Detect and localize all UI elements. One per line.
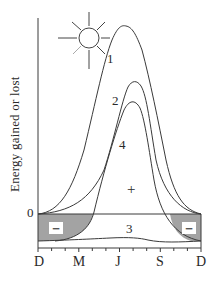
sun-icon [58, 12, 110, 69]
curve-label-2: 2 [112, 94, 119, 107]
negative-region-left [38, 214, 93, 241]
curve-label-3: 3 [126, 222, 133, 235]
curve-label-4: 4 [119, 138, 126, 151]
zero-label: 0 [27, 206, 34, 219]
curve-1 [38, 26, 201, 214]
negative-sign-left: − [49, 222, 63, 234]
curve-label-1: 1 [107, 52, 114, 65]
x-ticks [38, 248, 201, 252]
x-tick-label-mar: M [73, 255, 85, 269]
negative-sign-right: − [182, 222, 196, 234]
positive-region-sign: + [127, 182, 135, 197]
energy-diagram [0, 0, 217, 282]
y-axis-label: Energy gained or lost [8, 76, 21, 192]
x-tick-label-dec-start: D [34, 255, 44, 269]
x-tick-label-jun: J [115, 255, 120, 269]
x-tick-label-sep: S [156, 255, 164, 269]
x-tick-label-dec-end: D [196, 255, 206, 269]
